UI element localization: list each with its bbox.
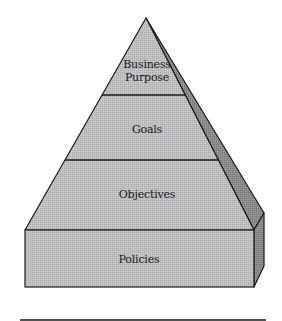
level-goals-label: Goals	[107, 123, 187, 136]
business-purpose-line1: Business	[112, 58, 182, 71]
pyramid-graphic	[0, 0, 282, 321]
pyramid-diagram: Business Purpose Goals Objectives Polici…	[0, 0, 282, 321]
level-objectives-label: Objectives	[97, 188, 197, 201]
business-purpose-line2: Purpose	[112, 71, 182, 84]
level-business-purpose-label: Business Purpose	[112, 58, 182, 84]
level-policies-label: Policies	[99, 253, 179, 266]
